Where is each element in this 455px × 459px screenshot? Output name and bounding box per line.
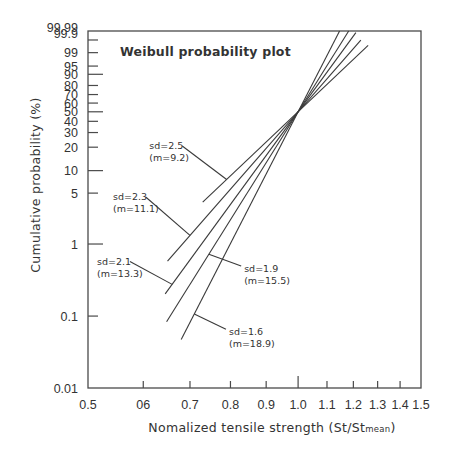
annotation-leader-line [146,197,190,235]
y-tick-label: 99.9 [54,27,78,41]
x-tick-label: 0.8 [222,398,239,412]
x-tick-label: 0.7 [181,398,198,412]
y-tick-label: 30 [64,126,78,140]
annotation: sd=2.5(m=9.2) [149,140,226,180]
annotation-leader-line [209,254,241,266]
y-tick-label: 10 [64,164,78,178]
y-tick-label: 1 [71,238,78,252]
annotation-sd-label: sd=1.6 [229,326,263,337]
annotation-m-label: (m=11.1) [113,203,159,214]
x-tick-label: 1.4 [391,398,408,412]
annotation-m-label: (m=13.3) [97,268,143,279]
annotation-leader-line [194,314,226,329]
x-tick-label: 1.5 [412,398,429,412]
x-axis-label-close: ) [390,420,395,435]
series-line-m13.3 [165,33,356,294]
annotation-m-label: (m=15.5) [244,275,290,286]
series-line-m18.9 [181,31,339,339]
series-line-m9.2 [203,45,368,202]
x-axis-label-main: Nomalized tensile strength (St/St [148,420,365,435]
x-tick-label: 1.1 [318,398,335,412]
x-tick-label: 0.5 [79,398,96,412]
x-axis: 0.5060.70.80.91.01.11.21.31.41.5 [79,376,429,412]
annotation-sd-label: sd=2.1 [97,256,131,267]
annotation: sd=1.9(m=15.5) [209,254,290,286]
series-line-m11.1 [168,40,361,261]
annotation-sd-label: sd=1.9 [244,263,278,274]
x-tick-label: 06 [136,398,150,412]
y-axis: 99.9999.99995908070605040302010510.10.01 [47,21,103,396]
x-tick-label: 1.3 [369,398,386,412]
annotation: sd=2.1(m=13.3) [97,256,172,285]
weibull-chart: 99.9999.99995908070605040302010510.10.01… [0,0,455,459]
annotation-sd-label: sd=2.3 [113,191,147,202]
x-tick-label: 1.2 [345,398,362,412]
annotation: sd=1.6(m=18.9) [194,314,274,349]
y-axis-label: Cumulative probability (%) [28,97,43,272]
chart-title: Weibull probability plot [120,44,291,59]
annotation-sd-label: sd=2.5 [149,140,183,151]
y-tick-label: 0.01 [54,382,78,396]
x-axis-label-subscript: mean [365,424,390,434]
series-lines [165,31,368,339]
y-tick-label: 5 [71,187,78,201]
x-tick-label: 1.0 [289,398,306,412]
annotation-m-label: (m=18.9) [229,338,275,349]
y-tick-label: 20 [64,141,78,155]
annotation: sd=2.3(m=11.1) [113,191,190,235]
y-tick-label: 0.1 [61,310,78,324]
y-tick-label: 99 [64,46,78,60]
x-axis-label: Nomalized tensile strength (St/Stmean) [148,420,395,435]
x-tick-label: 0.9 [257,398,274,412]
annotation-m-label: (m=9.2) [149,152,189,163]
